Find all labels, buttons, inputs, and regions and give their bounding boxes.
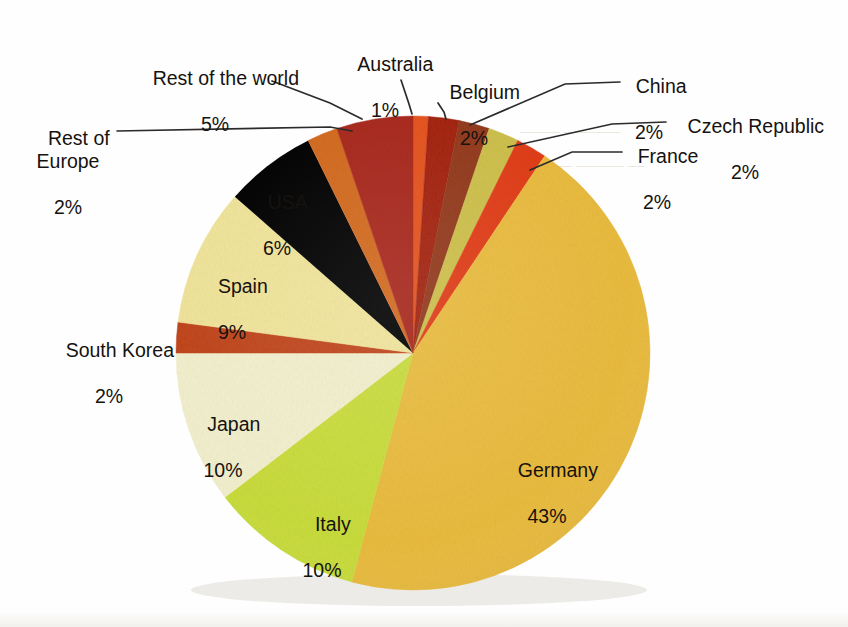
pie-label-name: Belgium [450,81,520,103]
pie-label-value: 43% [486,505,608,528]
pie-label-name: Rest of Europe [37,127,110,172]
pie-label-value: 10% [276,559,368,582]
pie-label-value: 5% [125,113,305,136]
pie-label-value: 10% [172,459,274,482]
pie-label-name: Germany [518,459,598,481]
pie-label-value: 2% [424,127,524,150]
pie-chart-figure: _____ _______ ____ ______ __ _______ ___… [0,0,848,627]
pie-label-name: USA [268,191,308,213]
pie-label-rest-of-the-world: Rest of the world 5% [125,44,305,182]
pie-label-name: Spain [218,275,268,297]
pie-label-value: 9% [184,321,280,344]
pie-label-name: Czech Republic [688,115,825,137]
pie-label-name: Australia [357,53,433,75]
pie-label-germany: Germany 43% [486,436,608,574]
pie-label-italy: Italy 10% [276,490,368,627]
pie-label-value: 2% [616,191,698,214]
pie-label-belgium: Belgium 2% [424,58,524,196]
pie-label-value: 2% [34,385,184,408]
pie-label-france: France 2% [616,122,698,260]
pie-label-name: South Korea [66,339,174,361]
pie-label-name: France [638,145,699,167]
pie-label-name: Italy [315,513,351,535]
pie-label-rest-of-europe: Rest of Europe 2% [18,104,118,265]
pie-label-south-korea: South Korea 2% [34,316,184,454]
pie-label-spain: Spain 9% [184,252,280,390]
pie-label-value: 2% [18,196,118,219]
pie-label-japan: Japan 10% [172,390,274,528]
pie-label-name: Japan [207,413,260,435]
pie-label-name: Rest of the world [153,67,299,89]
